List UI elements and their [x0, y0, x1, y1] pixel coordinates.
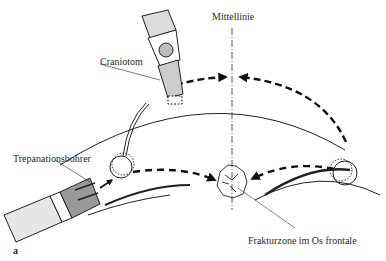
diagram-drawing	[0, 0, 386, 261]
label-trepanation-drill: Trepanationsbohrer	[13, 153, 91, 164]
panel-label: a	[13, 245, 18, 256]
burr-hole-left	[110, 103, 149, 178]
label-fracture-zone: Frakturzone im Os frontale	[248, 235, 357, 246]
label-midline: Mittellinie	[212, 11, 254, 22]
trepanation-drill-icon	[4, 160, 112, 242]
burr-hole-right	[330, 159, 357, 185]
label-craniotome: Craniotom	[100, 56, 143, 67]
skull-contours	[60, 113, 380, 215]
diagram-canvas: Mittellinie Craniotom Trepanationsbohrer…	[0, 0, 386, 261]
upper-arrows	[176, 77, 346, 142]
